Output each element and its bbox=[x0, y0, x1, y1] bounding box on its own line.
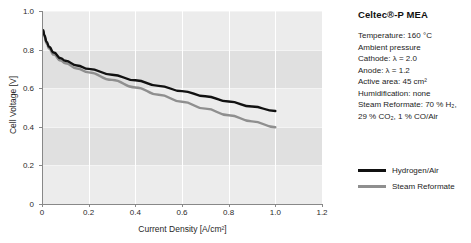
x-tick-label: 0 bbox=[40, 208, 44, 217]
y-tick-label: 1.0 bbox=[0, 7, 34, 16]
x-tick bbox=[182, 204, 183, 207]
plot-frame bbox=[42, 11, 322, 204]
legend-swatch bbox=[358, 169, 386, 172]
x-tick bbox=[275, 204, 276, 207]
x-tick bbox=[135, 204, 136, 207]
y-tick bbox=[39, 127, 42, 128]
info-line-active-area: Active area: 45 cm² bbox=[358, 76, 471, 88]
chart-area: 00.20.40.60.81.01.2 00.20.40.60.81.0 Cur… bbox=[0, 0, 340, 243]
x-tick bbox=[89, 204, 90, 207]
chart-legend: Hydrogen/AirSteam Reformate bbox=[358, 162, 471, 194]
info-title: Celtec®-P MEA bbox=[358, 9, 428, 20]
y-axis-line bbox=[42, 11, 43, 205]
x-tick bbox=[229, 204, 230, 207]
info-line-cathode: Cathode: λ = 2.0 bbox=[358, 53, 471, 65]
chart-screenshot: 00.20.40.60.81.01.2 00.20.40.60.81.0 Cur… bbox=[0, 0, 471, 243]
legend-row: Steam Reformate bbox=[358, 178, 471, 194]
legend-label: Hydrogen/Air bbox=[392, 166, 439, 175]
x-axis-title: Current Density [A/cm²] bbox=[42, 224, 323, 234]
info-line-steam-reformate-2: 29 % CO₂, 1 % CO/Air bbox=[358, 111, 471, 123]
x-tick-label: 0.2 bbox=[83, 208, 94, 217]
info-parameter-list: Temperature: 160 °CAmbient pressureCatho… bbox=[358, 30, 471, 122]
legend-row: Hydrogen/Air bbox=[358, 162, 471, 178]
x-tick bbox=[322, 204, 323, 207]
y-tick bbox=[39, 204, 42, 205]
x-tick-label: 1.0 bbox=[270, 208, 281, 217]
series-line-steam-reformate bbox=[43, 31, 275, 127]
y-tick bbox=[39, 165, 42, 166]
info-panel: Celtec®-P MEA Temperature: 160 °CAmbient… bbox=[358, 0, 471, 243]
info-line-steam-reformate-1: Steam Reformate: 70 % H₂, bbox=[358, 99, 471, 111]
x-tick-label: 0.8 bbox=[223, 208, 234, 217]
y-tick bbox=[39, 88, 42, 89]
curves-svg bbox=[42, 11, 322, 204]
y-tick bbox=[39, 50, 42, 51]
x-tick-label: 1.2 bbox=[316, 208, 327, 217]
y-axis-title: Cell Voltage [V] bbox=[8, 20, 18, 190]
series-line-hydrogen-air bbox=[43, 30, 275, 111]
y-tick bbox=[39, 11, 42, 12]
x-tick-label: 0.4 bbox=[130, 208, 141, 217]
info-line-pressure: Ambient pressure bbox=[358, 42, 471, 54]
info-line-anode: Anode: λ = 1.2 bbox=[358, 65, 471, 77]
info-line-temperature: Temperature: 160 °C bbox=[358, 30, 471, 42]
legend-swatch bbox=[358, 185, 386, 188]
info-line-humidification: Humidification: none bbox=[358, 88, 471, 100]
x-tick-label: 0.6 bbox=[176, 208, 187, 217]
legend-label: Steam Reformate bbox=[392, 182, 455, 191]
x-tick bbox=[42, 204, 43, 207]
y-tick-label: 0 bbox=[0, 200, 34, 209]
